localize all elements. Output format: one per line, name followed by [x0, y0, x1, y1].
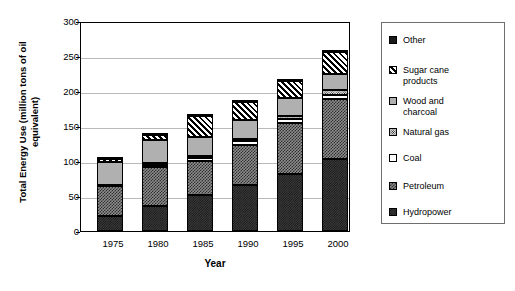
bar-segment-wood-and-charcoal-1985[interactable]	[187, 137, 213, 157]
bar-segment-natural-gas-1985[interactable]	[187, 156, 213, 158]
legend-item-coal[interactable]: Coal	[389, 153, 422, 164]
legend-item-sugar-cane-products[interactable]: Sugar cane products	[389, 65, 449, 86]
bar-segment-natural-gas-1990[interactable]	[232, 139, 258, 142]
legend-item-label: Petroleum	[403, 181, 444, 192]
bar-segment-petroleum-2000[interactable]	[322, 99, 348, 159]
fine-dots-icon	[389, 128, 397, 136]
y-tick-label-50: 50	[43, 192, 79, 202]
bar-segment-coal-1985[interactable]	[187, 158, 213, 161]
plot-inner	[81, 23, 349, 231]
bar-segment-sugar-cane-products-1975[interactable]	[97, 159, 123, 162]
y-tick-label-0: 0	[43, 227, 79, 237]
plot-area	[80, 22, 350, 232]
bar-segment-wood-and-charcoal-1990[interactable]	[232, 120, 258, 138]
legend-item-wood-and-charcoal[interactable]: Wood and charcoal	[389, 96, 444, 117]
y-tick-label-300: 300	[43, 17, 79, 27]
bar-segment-petroleum-1990[interactable]	[232, 145, 258, 185]
bar-segment-petroleum-1985[interactable]	[187, 161, 213, 195]
bar-segment-other-2000[interactable]	[322, 50, 348, 52]
y-tick-label-250: 250	[43, 52, 79, 62]
bar-segment-coal-1990[interactable]	[232, 141, 258, 145]
bar-segment-petroleum-1980[interactable]	[142, 167, 168, 206]
legend-item-other[interactable]: Other	[389, 35, 426, 46]
solid-black-icon	[389, 36, 397, 44]
legend-item-label: Coal	[403, 153, 422, 164]
bar-segment-hydropower-1975[interactable]	[97, 216, 123, 231]
bar-segment-sugar-cane-products-1995[interactable]	[277, 81, 303, 99]
gridline-200	[81, 93, 349, 94]
gridline-250	[81, 58, 349, 59]
y-axis-title: Total Energy Use (million tons of oil eq…	[17, 15, 41, 230]
bar-segment-petroleum-1995[interactable]	[277, 123, 303, 173]
bar-segment-coal-2000[interactable]	[322, 95, 348, 100]
white-icon	[389, 154, 397, 162]
y-tick-mark-0	[76, 232, 80, 233]
x-axis-title: Year	[80, 258, 350, 269]
bar-segment-other-1975[interactable]	[97, 157, 123, 159]
legend-item-petroleum[interactable]: Petroleum	[389, 181, 444, 192]
y-axis-title-line-2: equivalent)	[29, 97, 40, 147]
bar-segment-wood-and-charcoal-1975[interactable]	[97, 162, 123, 185]
bar-segment-wood-and-charcoal-1980[interactable]	[142, 140, 168, 163]
bar-segment-sugar-cane-products-1980[interactable]	[142, 135, 168, 140]
bar-segment-wood-and-charcoal-1995[interactable]	[277, 98, 303, 116]
y-axis-title-line-1: Total Energy Use (million tons of oil	[17, 41, 28, 202]
y-tick-label-100: 100	[43, 157, 79, 167]
legend-item-natural-gas[interactable]: Natural gas	[389, 127, 449, 138]
bar-segment-hydropower-2000[interactable]	[322, 159, 348, 231]
bar-segment-coal-1980[interactable]	[142, 165, 168, 168]
chart-figure: Total Energy Use (million tons of oil eq…	[0, 0, 515, 291]
bar-segment-hydropower-1985[interactable]	[187, 195, 213, 231]
bar-segment-hydropower-1990[interactable]	[232, 185, 258, 231]
x-tick-label-2000: 2000	[308, 238, 368, 249]
y-tick-label-150: 150	[43, 122, 79, 132]
legend-item-label: Natural gas	[403, 127, 449, 138]
bar-segment-sugar-cane-products-1985[interactable]	[187, 116, 213, 136]
y-tick-label-200: 200	[43, 87, 79, 97]
diagonal-hatch-icon	[389, 66, 397, 74]
legend-item-hydropower[interactable]: Hydropower	[389, 207, 452, 218]
bar-segment-other-1980[interactable]	[142, 133, 168, 135]
chart-legend: OtherSugar cane productsWood and charcoa…	[381, 22, 505, 224]
legend-item-label: Wood and charcoal	[403, 96, 444, 117]
bar-segment-sugar-cane-products-2000[interactable]	[322, 52, 348, 74]
dark-gray-weave-icon	[389, 208, 397, 216]
bar-segment-other-1995[interactable]	[277, 79, 303, 81]
gridline-150	[81, 128, 349, 129]
legend-item-label: Hydropower	[403, 207, 452, 218]
light-gray-icon	[389, 97, 397, 105]
bar-segment-other-1990[interactable]	[232, 100, 258, 102]
bar-segment-natural-gas-2000[interactable]	[322, 90, 348, 94]
bar-segment-hydropower-1980[interactable]	[142, 206, 168, 231]
bar-segment-wood-and-charcoal-2000[interactable]	[322, 74, 348, 91]
bar-segment-sugar-cane-products-1990[interactable]	[232, 102, 258, 120]
bar-segment-natural-gas-1995[interactable]	[277, 116, 303, 120]
bar-segment-hydropower-1995[interactable]	[277, 174, 303, 231]
bar-segment-other-1985[interactable]	[187, 114, 213, 116]
legend-item-label: Other	[403, 35, 426, 46]
legend-item-label: Sugar cane products	[403, 65, 449, 86]
bar-segment-petroleum-1975[interactable]	[97, 186, 123, 216]
checkerboard-icon	[389, 182, 397, 190]
bar-segment-coal-1995[interactable]	[277, 119, 303, 123]
